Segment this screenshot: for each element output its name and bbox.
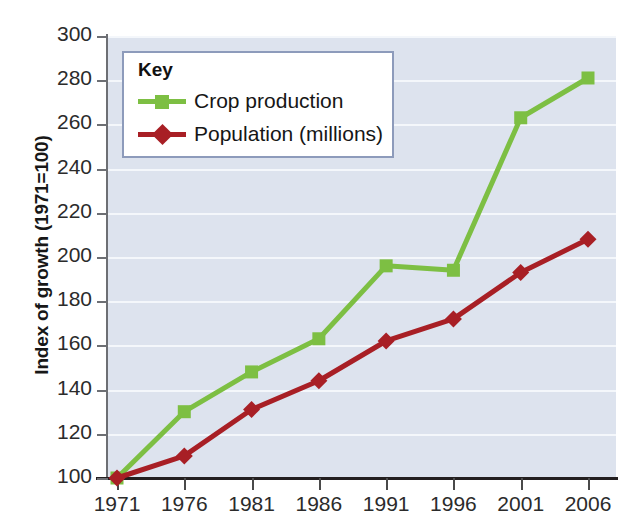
x-tick-mark: [588, 478, 590, 490]
gridline: [108, 301, 616, 303]
x-tick-label: 2006: [548, 492, 624, 516]
y-tick-mark: [97, 345, 108, 347]
y-tick-mark: [97, 390, 108, 392]
gridline: [108, 169, 616, 171]
x-tick-mark: [521, 478, 523, 490]
y-tick-label: 160: [30, 331, 92, 355]
y-tick-mark: [97, 478, 108, 480]
y-tick-mark: [97, 36, 108, 38]
y-tick-mark: [97, 124, 108, 126]
y-tick-label: 240: [30, 155, 92, 179]
gridline: [108, 390, 616, 392]
y-tick-mark: [97, 169, 108, 171]
gridline: [108, 257, 616, 259]
y-tick-label: 200: [30, 243, 92, 267]
y-tick-label: 260: [30, 110, 92, 134]
x-tick-mark: [453, 478, 455, 490]
legend-title: Key: [138, 59, 173, 81]
y-tick-label: 280: [30, 66, 92, 90]
legend-item-population[interactable]: Population (millions): [138, 119, 383, 149]
legend-swatch-diamond-icon: [138, 123, 186, 145]
legend-item-crop-production[interactable]: Crop production: [138, 86, 343, 116]
gridline: [108, 345, 616, 347]
line-chart: Index of growth (1971=100) 1001201401601…: [0, 0, 624, 532]
legend-label-crop-production: Crop production: [194, 89, 343, 113]
y-tick-label: 180: [30, 287, 92, 311]
y-tick-mark: [97, 80, 108, 82]
x-tick-mark: [252, 478, 254, 490]
y-tick-label: 220: [30, 199, 92, 223]
x-tick-mark: [386, 478, 388, 490]
y-tick-label: 120: [30, 420, 92, 444]
y-tick-label: 140: [30, 376, 92, 400]
x-tick-mark: [184, 478, 186, 490]
legend-swatch-square-icon: [138, 90, 186, 112]
gridline: [108, 213, 616, 215]
gridline: [108, 434, 616, 436]
x-axis-line: [96, 477, 618, 480]
legend: Key Crop production Population (millions…: [122, 51, 394, 158]
y-tick-mark: [97, 301, 108, 303]
y-tick-label: 300: [30, 22, 92, 46]
x-tick-mark: [319, 478, 321, 490]
y-tick-mark: [97, 434, 108, 436]
legend-label-population: Population (millions): [194, 122, 383, 146]
y-tick-mark: [97, 213, 108, 215]
gridline: [108, 36, 616, 38]
y-tick-label: 100: [30, 464, 92, 488]
x-tick-mark: [117, 478, 119, 490]
y-tick-mark: [97, 257, 108, 259]
